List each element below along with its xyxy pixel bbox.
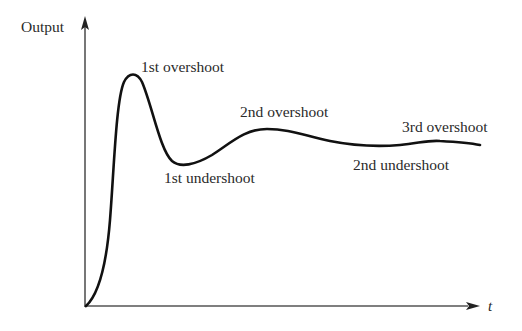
x-axis-label: t <box>488 298 493 314</box>
step-response-diagram: Output t 1st overshoot 1st undershoot 2n… <box>0 0 522 331</box>
y-axis-label: Output <box>21 18 65 35</box>
x-axis <box>85 302 480 310</box>
x-axis-arrow-icon <box>466 302 480 310</box>
first-undershoot-label: 1st undershoot <box>164 169 256 186</box>
y-axis <box>81 16 89 307</box>
third-overshoot-label: 3rd overshoot <box>402 118 488 135</box>
second-undershoot-label: 2nd undershoot <box>353 156 450 173</box>
second-overshoot-label: 2nd overshoot <box>240 103 329 120</box>
first-overshoot-label: 1st overshoot <box>141 58 225 75</box>
